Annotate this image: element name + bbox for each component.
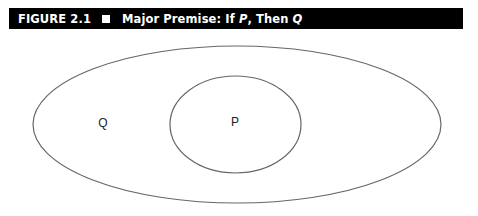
euler-diagram: Q P bbox=[0, 0, 478, 216]
outer-set-label: Q bbox=[98, 116, 107, 130]
inner-set-label: P bbox=[231, 115, 239, 129]
